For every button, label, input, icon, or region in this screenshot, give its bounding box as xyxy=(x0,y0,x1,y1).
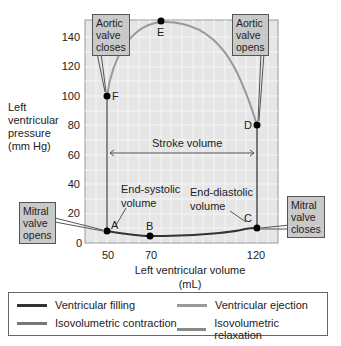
legend-item-isovolumetric-relaxation: Isovolumetric relaxation xyxy=(177,317,327,341)
point-b xyxy=(147,233,154,240)
callout-text: valve xyxy=(291,211,321,223)
callout-text: valve xyxy=(96,29,126,41)
callout-text: valve xyxy=(23,217,52,229)
point-f xyxy=(104,93,111,100)
callout-aortic-valve-closes: Aortic valve closes xyxy=(92,14,130,56)
callout-mitral-valve-closes: Mitral valve closes xyxy=(287,196,325,238)
legend-label: Isovolumetric relaxation xyxy=(214,317,327,341)
y-tick-100: 100 xyxy=(62,90,80,102)
point-label-e: E xyxy=(157,26,164,38)
legend-swatch xyxy=(17,304,47,307)
legend-swatch xyxy=(17,322,47,325)
point-label-b: B xyxy=(146,220,153,232)
y-tick-60: 60 xyxy=(68,149,80,161)
y-tick-40: 40 xyxy=(68,178,80,190)
end-systolic-label-line1: End-systolic xyxy=(121,183,181,195)
x-axis-label-line1: Left ventricular volume xyxy=(135,264,246,276)
callout-text: Mitral xyxy=(23,205,52,217)
legend: Ventricular filling Ventricular ejection… xyxy=(8,292,328,336)
callout-text: closes xyxy=(96,41,126,53)
callout-text: closes xyxy=(291,223,321,235)
point-label-f: F xyxy=(112,90,119,102)
callout-text: opens xyxy=(236,41,265,53)
callout-text: Aortic xyxy=(236,17,265,29)
x-tick-50: 50 xyxy=(102,249,114,261)
y-tick-0: 0 xyxy=(76,237,82,249)
callout-text: opens xyxy=(23,229,52,241)
y-axis-label-line1: Left xyxy=(8,101,26,113)
point-e xyxy=(158,18,165,25)
point-d xyxy=(254,122,261,129)
x-axis-label-line2: (mL) xyxy=(179,278,202,290)
legend-swatch xyxy=(177,328,206,331)
legend-swatch xyxy=(177,304,207,307)
callout-aortic-valve-opens: Aortic valve opens xyxy=(232,14,269,56)
callout-text: Aortic xyxy=(96,17,126,29)
legend-item-isovolumetric-contraction: Isovolumetric contraction xyxy=(17,317,177,329)
legend-label: Isovolumetric contraction xyxy=(55,317,177,329)
legend-item-ventricular-filling: Ventricular filling xyxy=(17,299,135,311)
y-axis-label-line4: (mm Hg) xyxy=(8,140,51,152)
point-a xyxy=(104,228,111,235)
y-tick-140: 140 xyxy=(62,31,80,43)
pv-loop-chart: A B C D E F Stroke volume End-systolic v… xyxy=(0,0,341,290)
y-axis-label-line3: pressure xyxy=(8,127,51,139)
point-c xyxy=(254,225,261,232)
point-label-c: C xyxy=(244,212,252,224)
y-axis-label-line2: ventricular xyxy=(8,114,59,126)
y-tick-120: 120 xyxy=(62,60,80,72)
point-label-d: D xyxy=(244,119,252,131)
callout-mitral-valve-opens: Mitral valve opens xyxy=(19,202,56,244)
legend-item-ventricular-ejection: Ventricular ejection xyxy=(177,299,308,311)
end-diastolic-label-line2: volume xyxy=(190,200,225,212)
end-diastolic-label-line1: End-diastolic xyxy=(190,186,253,198)
x-tick-120: 120 xyxy=(247,249,265,261)
y-tick-80: 80 xyxy=(68,119,80,131)
end-systolic-label-line2: volume xyxy=(121,197,156,209)
callout-text: Mitral xyxy=(291,199,321,211)
point-label-a: A xyxy=(111,219,119,231)
legend-label: Ventricular filling xyxy=(55,299,135,311)
y-tick-20: 20 xyxy=(68,207,80,219)
callout-text: valve xyxy=(236,29,265,41)
stroke-volume-label: Stroke volume xyxy=(152,137,222,149)
legend-label: Ventricular ejection xyxy=(215,299,308,311)
x-tick-70: 70 xyxy=(145,249,157,261)
